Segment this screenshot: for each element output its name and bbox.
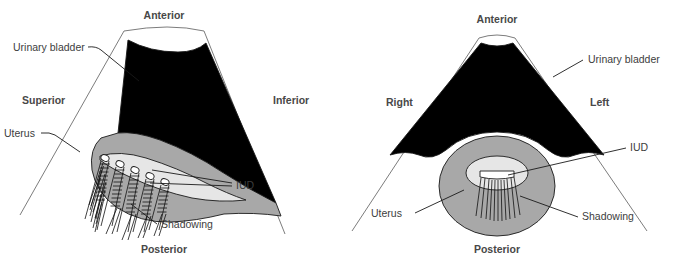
transverse-label-anterior: Anterior bbox=[477, 13, 518, 25]
sagittal-annotation-shadowing: Shadowing bbox=[161, 218, 213, 230]
transverse-label-left: Left bbox=[590, 96, 610, 108]
ultrasound-iud-figure: Anterior Superior Inferior Posterior Uri… bbox=[0, 0, 673, 269]
sagittal-label-anterior: Anterior bbox=[144, 9, 185, 21]
transverse-annotation-iud: IUD bbox=[630, 141, 649, 153]
sagittal-annotation-iud: IUD bbox=[236, 179, 255, 191]
sagittal-label-posterior: Posterior bbox=[141, 243, 187, 255]
transverse-annotation-urinary-bladder: Urinary bladder bbox=[588, 53, 660, 65]
sagittal-annotation-uterus: Uterus bbox=[4, 127, 35, 139]
transverse-annotation-uterus: Uterus bbox=[371, 207, 402, 219]
sagittal-panel: Anterior Superior Inferior Posterior Uri… bbox=[0, 0, 340, 269]
transverse-panel: Anterior Right Left Posterior Urinary bl… bbox=[340, 0, 673, 269]
sagittal-label-superior: Superior bbox=[22, 94, 65, 106]
transverse-annotation-shadowing: Shadowing bbox=[582, 210, 634, 222]
leader-uterus bbox=[41, 133, 80, 152]
transverse-label-right: Right bbox=[386, 96, 413, 108]
leader-urinary-bladder bbox=[553, 60, 583, 77]
sagittal-annotation-urinary-bladder: Urinary bladder bbox=[13, 41, 85, 53]
sagittal-label-inferior: Inferior bbox=[273, 94, 309, 106]
transverse-label-posterior: Posterior bbox=[474, 243, 520, 255]
